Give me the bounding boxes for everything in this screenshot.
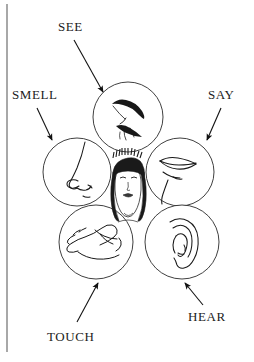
- diagram-page: SEE SMELL SAY TOUCH HEAR: [0, 0, 254, 362]
- label-touch: TOUCH: [47, 330, 95, 343]
- label-smell: SMELL: [12, 88, 58, 101]
- arrow-say: [207, 108, 221, 140]
- five-senses-illustration: [0, 0, 254, 362]
- arrow-see: [74, 40, 103, 92]
- sense-circle-smell: [43, 138, 111, 206]
- arrow-hear: [185, 283, 203, 305]
- sense-circle-see: [93, 82, 163, 152]
- label-hear: HEAR: [188, 310, 226, 323]
- sense-circle-hear: [145, 205, 219, 279]
- arrow-smell: [37, 108, 52, 140]
- arrow-touch: [77, 283, 98, 322]
- sense-circle-touch: [59, 205, 133, 279]
- label-see: SEE: [58, 20, 83, 33]
- label-say: SAY: [208, 88, 235, 101]
- sense-circle-say: [146, 138, 214, 206]
